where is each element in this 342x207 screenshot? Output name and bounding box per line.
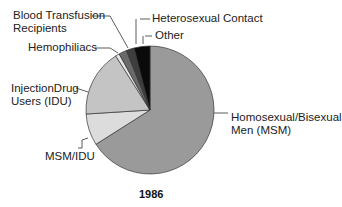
leader-line (78, 138, 88, 148)
label-transfusion: Blood Transfusion Recipients (13, 9, 105, 35)
label-other: Other (155, 29, 184, 42)
label-hemophiliacs: Hemophiliacs (28, 41, 97, 54)
chart-title: 1986 (139, 188, 163, 200)
label-msm-idu: MSM/IDU (45, 150, 95, 163)
label-idu: InjectionDrug Users (IDU) (11, 82, 79, 108)
label-msm: Homosexual/Bisexual Men (MSM) (231, 111, 342, 137)
leader-line (95, 48, 118, 53)
label-heterosexual: Heterosexual Contact (152, 12, 263, 25)
